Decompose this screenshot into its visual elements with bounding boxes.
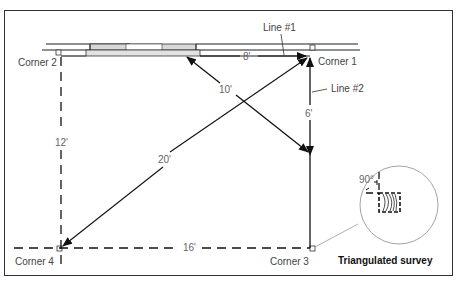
twenty-foot-diagonal-upper [170,58,307,152]
door [86,44,200,56]
corner-2-marker [56,50,61,55]
corner-detail-callout: 90° [315,166,438,247]
diagram-caption: Triangulated survey [338,255,433,266]
line-1-label: Line #1 [263,22,296,33]
corner-3-marker [310,246,315,251]
dim-10ft: 10' [219,84,232,95]
dim-12ft: 12' [55,137,68,148]
line-2-label: Line #2 [331,83,364,94]
ten-foot-diagonal-lower [236,95,308,152]
dim-8ft: 8' [243,51,251,62]
dim-16ft: 16' [183,242,196,253]
corner-3-label: Corner 3 [270,256,309,267]
line-2-leader [312,89,327,92]
dim-20ft: 20' [158,154,171,165]
ten-foot-diagonal-upper [187,57,220,83]
corner-2-label: Corner 2 [18,57,57,68]
triangulated-survey-diagram: 90° Corner 1 Corner 2 Corner 3 Corner 4 … [0,0,463,283]
corner-1-label: Corner 1 [318,56,357,67]
corner-4-label: Corner 4 [15,256,54,267]
angle-label: 90° [359,174,374,185]
corner-1-marker [310,45,315,50]
twenty-foot-diagonal-lower [63,167,163,246]
dim-6ft: 6' [305,108,313,119]
